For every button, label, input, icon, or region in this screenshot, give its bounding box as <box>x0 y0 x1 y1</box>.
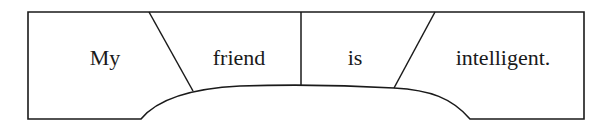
word-my: My <box>90 47 121 69</box>
divider-my-friend <box>149 12 193 91</box>
word-is: is <box>348 47 363 69</box>
divider-is-intelligent <box>394 12 435 88</box>
word-intelligent: intelligent. <box>456 47 551 69</box>
word-friend: friend <box>213 47 266 69</box>
